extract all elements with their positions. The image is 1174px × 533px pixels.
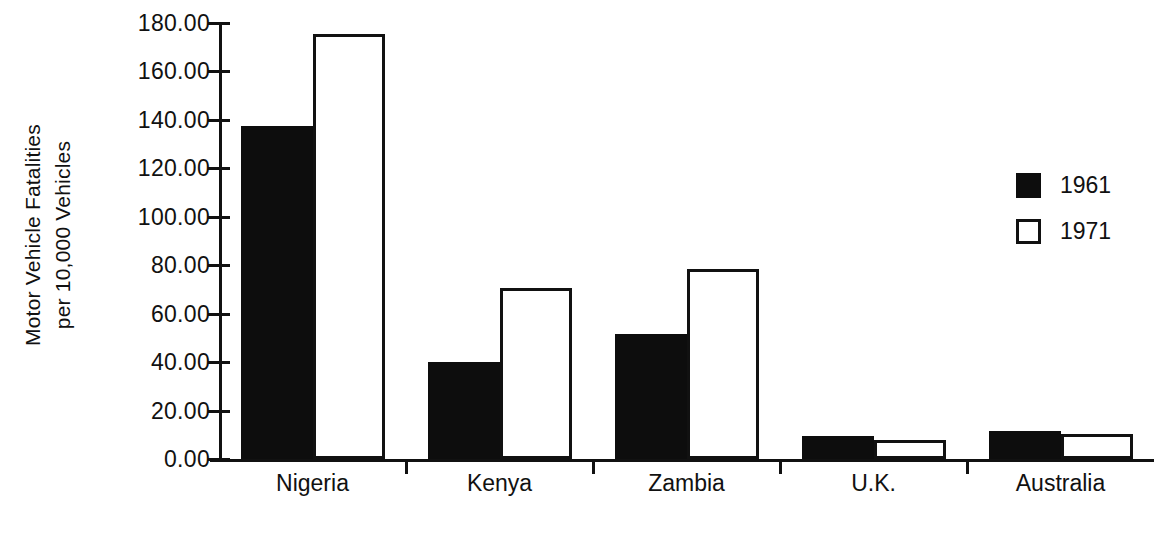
- y-tick-label: 180.00: [78, 12, 210, 35]
- y-tick-mark: [208, 22, 230, 25]
- y-axis-tick-labels: 0.0020.0040.0060.0080.00100.00120.00140.…: [78, 0, 210, 480]
- y-tick-label: 80.00: [78, 254, 210, 277]
- bar-kenya-1971: [500, 288, 572, 459]
- bar-australia-1961: [989, 431, 1061, 459]
- x-axis-line: [210, 459, 1154, 462]
- bar-zambia-1961: [615, 334, 687, 459]
- bar-australia-1971: [1061, 434, 1133, 459]
- x-axis-label-kenya: Kenya: [406, 470, 593, 496]
- y-tick-mark: [208, 216, 230, 219]
- bar-nigeria-1971: [313, 34, 385, 459]
- legend-label: 1961: [1060, 174, 1111, 197]
- y-tick-label: 140.00: [78, 109, 210, 132]
- x-axis-label-nigeria: Nigeria: [219, 470, 406, 496]
- y-tick-mark: [208, 70, 230, 73]
- filled-square-icon: [1016, 173, 1041, 198]
- chart-figure: Motor Vehicle Fatalities per 10,000 Vehi…: [0, 0, 1174, 533]
- y-tick-label: 60.00: [78, 303, 210, 326]
- y-axis-title-text: Motor Vehicle Fatalities per 10,000 Vehi…: [18, 124, 78, 346]
- bar-nigeria-1961: [241, 126, 313, 459]
- y-axis-title-line-2: per 10,000 Vehicles: [48, 124, 78, 346]
- y-tick-label: 160.00: [78, 60, 210, 83]
- x-axis-label-australia: Australia: [967, 470, 1154, 496]
- legend-item-1971: 1971: [1016, 208, 1156, 254]
- x-axis-label-uk: U.K.: [780, 470, 967, 496]
- y-tick-label: 0.00: [78, 448, 210, 471]
- bar-uk-1971: [874, 440, 946, 459]
- plot-area: [219, 23, 1154, 459]
- legend: 19611971: [1016, 162, 1156, 254]
- y-tick-mark: [208, 313, 230, 316]
- y-tick-label: 100.00: [78, 206, 210, 229]
- x-axis-tick-labels: NigeriaKenyaZambiaU.K.Australia: [219, 470, 1154, 515]
- x-axis-label-zambia: Zambia: [593, 470, 780, 496]
- bar-kenya-1961: [428, 362, 500, 459]
- y-tick-label: 20.00: [78, 400, 210, 423]
- y-axis-line: [219, 23, 222, 460]
- y-axis-title-line-1: Motor Vehicle Fatalities: [18, 124, 48, 346]
- legend-item-1961: 1961: [1016, 162, 1156, 208]
- y-tick-mark: [208, 410, 230, 413]
- y-tick-mark: [208, 119, 230, 122]
- y-tick-mark: [208, 458, 230, 461]
- open-square-icon: [1016, 219, 1041, 244]
- bar-uk-1961: [802, 436, 874, 459]
- y-tick-mark: [208, 361, 230, 364]
- y-tick-label: 40.00: [78, 351, 210, 374]
- bar-zambia-1971: [687, 269, 759, 459]
- y-tick-mark: [208, 264, 230, 267]
- y-tick-label: 120.00: [78, 157, 210, 180]
- legend-label: 1971: [1060, 220, 1111, 243]
- y-tick-mark: [208, 167, 230, 170]
